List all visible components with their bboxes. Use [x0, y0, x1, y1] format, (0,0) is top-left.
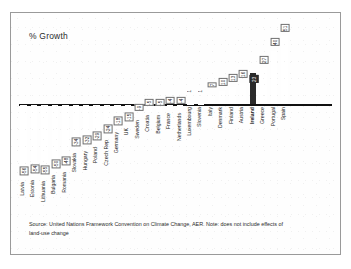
bar-category-label: Netherlands [176, 113, 186, 141]
bar-category-label: Greece [259, 107, 269, 124]
bar-slot[interactable]: -24Czech Rep [103, 21, 113, 206]
bar-category-label: Portugal [270, 107, 280, 126]
bar-greece[interactable] [260, 68, 266, 104]
bar-slovenia[interactable] [198, 103, 204, 105]
bar-slot[interactable]: 27Greece [259, 21, 269, 206]
bar-value-label: 40 [271, 38, 280, 46]
bar-category-label: Czech Rep [103, 140, 113, 166]
bar-croatia[interactable] [146, 105, 152, 112]
bar-value-label: 13 [229, 74, 238, 82]
bar-slot[interactable]: -50Bulgaria [50, 21, 60, 206]
bar-slot[interactable]: -5Belgium [155, 21, 165, 206]
bar-spain[interactable] [281, 36, 287, 104]
bar-slot[interactable]: 40Portugal [270, 21, 280, 206]
bar-slot[interactable]: 1Luxembourg [186, 21, 196, 206]
bar-value-label: -9 [135, 104, 144, 111]
bar-france[interactable] [167, 105, 173, 110]
bar-finland[interactable] [229, 87, 235, 104]
bar-value-label: -48 [62, 156, 71, 165]
bar-italy[interactable] [208, 95, 214, 104]
bar-value-label: 16 [239, 70, 248, 78]
bar-category-label: Ireland [249, 107, 259, 124]
bar-category-label: Sweden [134, 120, 144, 139]
bar-category-label: Romania [61, 172, 71, 193]
bar-slot[interactable]: 13Finland [228, 21, 238, 206]
bar-slot[interactable]: -5Croatia [144, 21, 154, 206]
bar-slot[interactable]: -18Germany [113, 21, 123, 206]
bar-value-label: 1 [187, 90, 192, 93]
bar-category-label: Latvia [19, 182, 29, 196]
bar-category-label: Luxembourg [186, 107, 196, 136]
bar-netherlands[interactable] [177, 105, 183, 110]
bar-value-label: 27 [260, 56, 269, 64]
bar-category-label: France [165, 113, 175, 129]
bar-value-label: -4 [177, 97, 186, 104]
bar-value-label: -32 [83, 135, 92, 144]
bar-value-label: -15 [125, 112, 134, 121]
bar-value-label: 10 [219, 78, 228, 86]
bar-category-label: Austria [238, 107, 248, 123]
bar-slot[interactable]: -15UK [123, 21, 133, 206]
bar-value-label: -54 [31, 164, 40, 173]
source-line-2: land-use change [29, 229, 329, 238]
bar-value-label: -55 [41, 165, 50, 174]
bar-slot[interactable]: -48Romania [61, 21, 71, 206]
bar-value-label: -4 [166, 97, 175, 104]
bar-belgium[interactable] [156, 105, 162, 112]
bar-category-label: Germany [113, 132, 123, 153]
bar-category-label: Lithuania [40, 181, 50, 202]
bar-category-label: Belgium [155, 115, 165, 134]
bar-series: -56Latvia-54Estonia-55Lithuania-50Bulgar… [19, 21, 332, 206]
bar-value-label: 23 [250, 75, 259, 83]
bar-category-label: Slovakia [71, 153, 81, 173]
bar-slot[interactable]: 23Ireland [249, 21, 259, 206]
bar-slot[interactable]: -56Latvia [19, 21, 29, 206]
bar-value-label: -56 [20, 166, 29, 175]
bar-austria[interactable] [240, 83, 246, 104]
bar-category-label: Croatia [144, 115, 154, 132]
bar-slot[interactable]: -32Hungary [82, 21, 92, 206]
bar-slot[interactable]: -4Netherlands [176, 21, 186, 206]
bar-slot[interactable]: 10Denmark [217, 21, 227, 206]
bar-category-label: Spain [280, 107, 290, 120]
bar-portugal[interactable] [271, 51, 277, 104]
bar-slot[interactable]: -34Slovakia [71, 21, 81, 206]
bar-slot[interactable]: 1Slovenia [196, 21, 206, 206]
bar-value-label: -5 [145, 99, 154, 106]
bar-slot[interactable]: -54Estonia [29, 21, 39, 206]
source-note: Source: United Nations Framework Convent… [29, 220, 329, 237]
bar-value-label: -5 [156, 99, 165, 106]
bar-category-label: Estonia [29, 180, 39, 197]
bar-denmark[interactable] [219, 91, 225, 104]
bar-slot[interactable]: 7Italy [207, 21, 217, 206]
bar-value-label: -29 [93, 131, 102, 140]
bar-slot[interactable]: 51Spain [280, 21, 290, 206]
bar-category-label: UK [123, 128, 133, 135]
bar-category-label: Italy [207, 107, 217, 117]
bar-value-label: 51 [281, 24, 290, 32]
bar-category-label: Poland [92, 147, 102, 163]
bar-value-label: -34 [72, 137, 81, 146]
bar-slot[interactable]: -4France [165, 21, 175, 206]
figure-frame: % Growth -56Latvia-54Estonia-55Lithuania… [10, 12, 341, 255]
bar-category-label: Denmark [217, 107, 227, 128]
bar-value-label: -24 [104, 124, 113, 133]
bar-value-label: 1 [198, 90, 203, 93]
bar-slot[interactable]: -55Lithuania [40, 21, 50, 206]
bar-category-label: Finland [228, 107, 238, 124]
bar-category-label: Slovenia [196, 107, 206, 127]
source-line-1: Source: United Nations Framework Convent… [29, 220, 329, 229]
bar-luxembourg[interactable] [187, 103, 193, 105]
bar-value-label: -50 [52, 159, 61, 168]
plot-area: -56Latvia-54Estonia-55Lithuania-50Bulgar… [19, 21, 334, 206]
bar-value-label: 7 [208, 82, 217, 87]
bar-category-label: Bulgaria [50, 175, 60, 194]
bar-value-label: -18 [114, 116, 123, 125]
bar-slot[interactable]: 16Austria [238, 21, 248, 206]
bar-slot[interactable]: -29Poland [92, 21, 102, 206]
bar-category-label: Hungary [82, 151, 92, 171]
bar-slot[interactable]: -9Sweden [134, 21, 144, 206]
